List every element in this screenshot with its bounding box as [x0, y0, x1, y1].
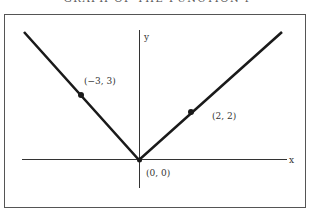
y-axis-label: y [143, 32, 150, 42]
point-origin [137, 158, 142, 163]
point-neg3-3-label: (−3, 3) [84, 76, 116, 86]
origin-label: (0, 0) [146, 168, 170, 178]
chart-frame [5, 15, 306, 208]
point-2-2-label: (2, 2) [212, 111, 236, 121]
function-line [24, 32, 282, 160]
chart-canvas: y x (−3, 3) (2, 2) (0, 0) [0, 0, 314, 211]
point-2-2 [188, 109, 194, 115]
x-axis-label: x [289, 155, 294, 165]
point-neg3-3 [78, 92, 84, 98]
